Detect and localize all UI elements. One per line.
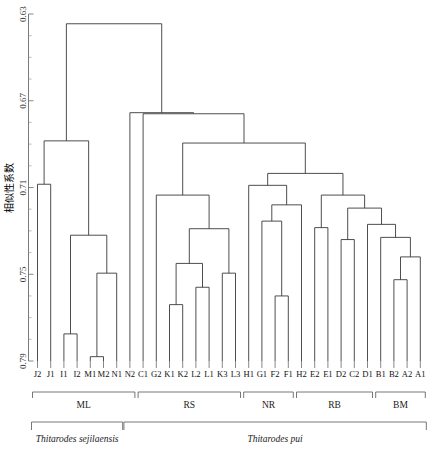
dendrogram-link bbox=[401, 257, 421, 361]
group-bracket bbox=[33, 392, 135, 398]
leaf-label: I2 bbox=[74, 369, 81, 379]
group-brackets: MLRSNRRBBM bbox=[33, 392, 426, 410]
species-label: Thitarodes sejilaensis bbox=[36, 434, 119, 444]
dendrogram-link bbox=[249, 185, 287, 361]
leaf-labels: J2J1I1I2M1M2N1N2C1G2K1K2L2L1K3L3H1G1F2F1… bbox=[34, 369, 426, 379]
y-tick-label-4: 0.79 bbox=[18, 353, 28, 369]
dendrogram-link bbox=[268, 173, 343, 195]
group-label: ML bbox=[77, 400, 91, 410]
dendrogram-link bbox=[130, 113, 194, 361]
leaf-label: F2 bbox=[271, 369, 280, 379]
y-axis-title: 相似性系数 bbox=[3, 163, 15, 213]
leaf-label: N2 bbox=[125, 369, 136, 379]
leaf-label: N1 bbox=[111, 369, 122, 379]
dendrogram-link bbox=[341, 240, 354, 361]
leaf-label: J1 bbox=[47, 369, 55, 379]
y-tick-label-1: 0.67 bbox=[18, 92, 28, 108]
dendrogram-link bbox=[262, 221, 282, 361]
dendrogram-link bbox=[196, 287, 209, 361]
group-label: RB bbox=[328, 400, 341, 410]
dendrogram-link bbox=[97, 273, 117, 361]
y-tick-label-3: 0.75 bbox=[18, 266, 28, 282]
dendrogram-link bbox=[315, 228, 328, 361]
y-axis: 0.630.670.710.750.79 bbox=[18, 6, 34, 369]
dendrogram-link bbox=[90, 357, 103, 361]
dendrogram-link bbox=[38, 184, 51, 361]
leaf-label: F1 bbox=[284, 369, 293, 379]
leaf-label: G2 bbox=[151, 369, 162, 379]
y-tick-label-0: 0.63 bbox=[18, 6, 28, 22]
group-bracket bbox=[297, 392, 373, 398]
leaf-label: K1 bbox=[164, 369, 175, 379]
dendrogram-link bbox=[394, 280, 407, 361]
dendrogram-link bbox=[368, 224, 396, 361]
leaf-label: L3 bbox=[231, 369, 241, 379]
dendrogram-link bbox=[64, 334, 77, 361]
species-bracket bbox=[124, 422, 426, 430]
leaf-ticks bbox=[38, 361, 421, 368]
leaf-label: I1 bbox=[60, 369, 67, 379]
dendrogram-link bbox=[275, 296, 288, 361]
dendrogram-link bbox=[176, 263, 202, 304]
leaf-label: B2 bbox=[389, 369, 399, 379]
leaf-label: H1 bbox=[243, 369, 254, 379]
leaf-label: J2 bbox=[34, 369, 42, 379]
leaf-label: E1 bbox=[323, 369, 333, 379]
leaf-label: B1 bbox=[376, 369, 386, 379]
dendrogram-link bbox=[381, 237, 411, 361]
species-label: Thitarodes pui bbox=[247, 434, 303, 444]
leaf-label: M1 bbox=[84, 369, 96, 379]
dendrogram-link bbox=[189, 229, 229, 273]
leaf-label: D2 bbox=[336, 369, 347, 379]
dendrogram-link bbox=[348, 208, 382, 239]
group-bracket bbox=[138, 392, 240, 398]
leaf-label: C2 bbox=[349, 369, 359, 379]
dendrogram-links bbox=[38, 24, 421, 361]
dendrogram-link bbox=[272, 205, 302, 361]
dendrogram-link bbox=[222, 273, 235, 361]
leaf-label: L1 bbox=[204, 369, 214, 379]
dendrogram-link bbox=[71, 235, 107, 334]
leaf-label: A2 bbox=[402, 369, 413, 379]
y-tick-label-2: 0.71 bbox=[18, 180, 28, 196]
leaf-label: K2 bbox=[177, 369, 188, 379]
axis-title: 相似性系数 bbox=[3, 163, 15, 213]
leaf-label: L2 bbox=[191, 369, 201, 379]
leaf-label: K3 bbox=[217, 369, 228, 379]
dendrogram-plot: 0.630.670.710.750.79 J2J1I1I2M1M2N1N2C1G… bbox=[0, 0, 443, 453]
group-label: RS bbox=[183, 400, 195, 410]
group-bracket bbox=[376, 392, 426, 398]
leaf-label: A1 bbox=[415, 369, 426, 379]
dendrogram-figure: 0.630.670.710.750.79 J2J1I1I2M1M2N1N2C1G… bbox=[0, 0, 443, 453]
dendrogram-link bbox=[170, 305, 183, 361]
group-label: NR bbox=[262, 400, 276, 410]
species-bracket bbox=[32, 422, 123, 430]
leaf-label: D1 bbox=[362, 369, 373, 379]
leaf-label: C1 bbox=[138, 369, 148, 379]
leaf-label: G1 bbox=[257, 369, 268, 379]
species-brackets: Thitarodes sejilaensisThitarodes pui bbox=[32, 422, 427, 444]
leaf-label: M2 bbox=[98, 369, 110, 379]
group-label: BM bbox=[393, 400, 408, 410]
leaf-label: E2 bbox=[310, 369, 320, 379]
leaf-label: H2 bbox=[296, 369, 307, 379]
dendrogram-link bbox=[321, 195, 364, 228]
dendrogram-link bbox=[66, 24, 161, 141]
group-bracket bbox=[244, 392, 294, 398]
